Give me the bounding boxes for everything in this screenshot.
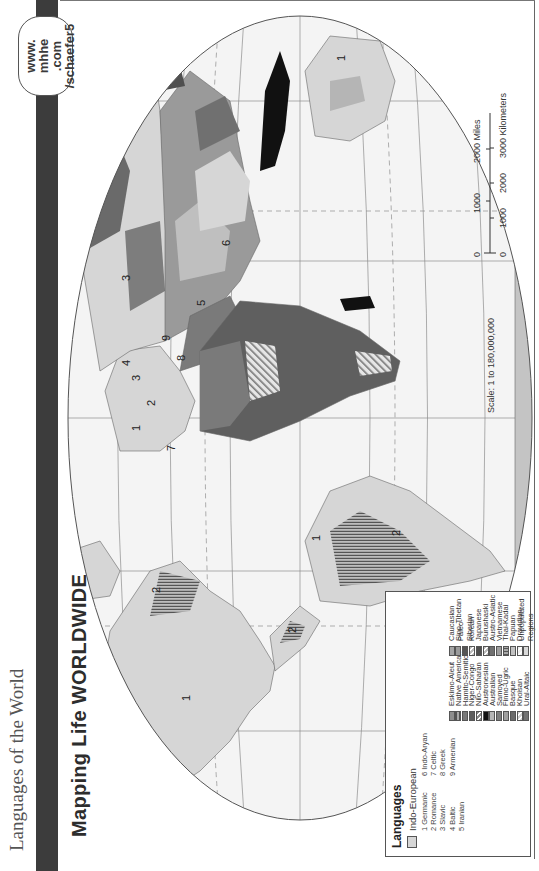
swatch-icon [449,711,455,721]
swatch-icon [407,836,417,848]
swatch-icon [503,711,509,721]
legend-item-indo-european: Indo-European [406,768,418,848]
label-europe-4: 4 [120,360,132,366]
legend-item: Unpopulated Regions [523,592,530,656]
swatch-icon [483,711,489,721]
swatch-icon [462,711,468,721]
label-europe-8: 8 [175,355,187,361]
swatch-icon [496,711,502,721]
indo-european-subgroups-left: 1 Germanic 2 Romance 3 Slavic 4 Baltic 5… [420,792,466,831]
swatch-icon [469,711,475,721]
swatch-icon [489,711,495,721]
label-iran: 5 [195,300,207,306]
scale-ratio: Scale: 1 to 180,000,000 [486,318,496,413]
label-brazil: 2 [390,530,402,536]
swatch-icon [469,646,475,656]
swatch-icon [510,711,516,721]
map-scale: Scale: 1 to 180,000,000 0 1000 2000 Mile… [472,53,512,413]
label-russia: 3 [120,275,132,281]
swatch-icon [462,646,468,656]
swatch-icon [449,646,455,656]
label-australia: 1 [335,55,347,61]
label-sa-north: 1 [310,535,322,541]
swatch-icon [476,711,482,721]
swatch-icon [517,711,523,721]
swatch-icon [503,646,509,656]
label-central-america: 2 [286,627,298,633]
legend-title: Languages [390,785,404,848]
label-north-america: 1 [180,695,192,701]
label-europe-9: 9 [160,335,172,341]
swatch-icon [489,646,495,656]
page-frame-bottom [534,0,535,859]
label-europe-1: 1 [130,425,142,431]
indo-european-subgroups-right: 6 Indo-Aryan 7 Celtic 8 Greek 9 Armenian [420,733,457,776]
swatch-icon [483,646,489,656]
new-zealand [400,13,440,31]
page-frame-right [60,0,535,1]
swatch-icon [517,646,523,656]
label-europe-2: 2 [145,400,157,406]
legend-item-label: Unpopulated Regions [517,592,535,641]
swatch-icon [476,646,482,656]
swatch-icon [523,711,529,721]
swatch-icon [510,646,516,656]
swatch-icon [523,646,529,656]
atlas-page: Languages of the World www. mhhe .com /s… [0,0,539,871]
legend-item-label: Ural-Altaic [522,671,531,706]
label-india: 6 [220,240,232,246]
swatch-icon [496,646,502,656]
label-mexico: 2 [150,587,162,593]
swatch-icon [455,646,461,656]
legend-item: Ural-Altaic [523,671,530,721]
map-legend: Languages Indo-European 1 Germanic 2 Rom… [385,591,531,857]
swatch-icon [455,711,461,721]
label-europe-3: 3 [130,375,142,381]
label-europe-7: 7 [165,445,177,451]
